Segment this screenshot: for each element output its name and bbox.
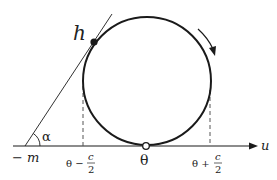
label-neg-m: − m — [12, 150, 39, 165]
angle-alpha-arc — [33, 134, 40, 147]
label-alpha: α — [42, 129, 51, 144]
circle-tangent-diagram: h α − m θ θ − c 2 θ + c 2 u — [0, 0, 277, 180]
label-left-frac-num: c — [88, 151, 94, 162]
label-theta-plus-prefix: θ + — [192, 158, 210, 169]
label-theta-minus-prefix: θ − — [66, 158, 84, 169]
rotation-arrowhead — [209, 46, 216, 56]
label-left-frac-den: 2 — [88, 164, 94, 175]
label-h: h — [73, 21, 86, 45]
label-theta: θ — [140, 152, 148, 168]
point-h-dot — [90, 38, 97, 45]
circle — [83, 17, 211, 145]
label-right-frac-num: c — [215, 151, 221, 162]
u-axis-arrowhead — [249, 143, 258, 150]
tangent-line — [25, 14, 112, 146]
label-u-axis: u — [261, 138, 269, 153]
point-theta-dot — [143, 143, 150, 150]
label-right-frac-den: 2 — [215, 164, 221, 175]
